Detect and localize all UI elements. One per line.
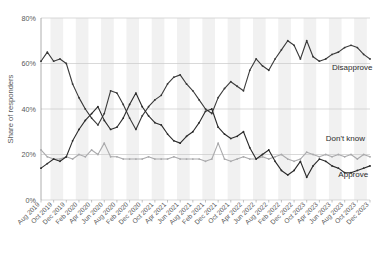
series-label-disapprove: Disapprove [332, 63, 373, 72]
y-tick-label: 40% [22, 105, 37, 114]
y-tick-label: 80% [22, 14, 37, 23]
y-axis-ticks: 0%20%40%60%80% [22, 14, 37, 205]
x-axis-ticks: Aug 2019Oct 2019Dec 2019Feb 2020Apr 2020… [16, 200, 370, 226]
poll-line-chart: 0%20%40%60%80%Share of respondersAug 201… [0, 0, 379, 270]
series-label-don-t-know: Don't know [326, 134, 366, 143]
y-axis-title: Share of responders [6, 74, 15, 143]
y-tick-label: 60% [22, 59, 37, 68]
series-label-approve: Approve [338, 170, 368, 179]
y-tick-label: 20% [22, 150, 37, 159]
chart-container: 0%20%40%60%80%Share of respondersAug 201… [0, 0, 379, 270]
